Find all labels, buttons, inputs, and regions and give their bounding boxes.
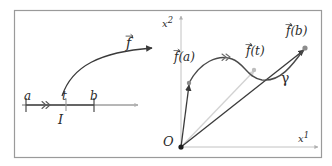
- label-f-of-a: f(a): [174, 51, 195, 63]
- label-t: t: [62, 90, 67, 102]
- label-axis-x2: x2: [162, 16, 173, 29]
- label-origin: O: [163, 135, 174, 148]
- label-axis-x2-sup: 2: [168, 15, 173, 25]
- point-f-of-t: [252, 68, 256, 72]
- figure-root: a t b I f x2 x1 O f(a): [0, 0, 332, 166]
- label-f-of-b: f(b): [286, 25, 308, 37]
- vector-arrow-accent-fb: f(b): [286, 25, 308, 37]
- vector-arrow-accent-fa: f(a): [174, 51, 195, 63]
- label-curve-gamma: γ: [281, 71, 289, 85]
- point-origin: [178, 144, 183, 149]
- label-f-of-b-text: f(b): [286, 24, 308, 38]
- label-b: b: [90, 90, 98, 102]
- label-f-of-t: f(t): [246, 45, 265, 57]
- vector-arrow-accent-ft: f(t): [246, 45, 265, 57]
- label-axis-x1-sup: 1: [304, 130, 309, 140]
- label-map-f: f: [126, 36, 131, 50]
- label-f-of-t-text: f(t): [246, 44, 265, 58]
- label-a: a: [24, 90, 31, 102]
- label-map-f-text: f: [126, 35, 131, 51]
- point-f-of-b: [302, 45, 307, 50]
- vector-arrow-accent-f: f: [126, 36, 131, 50]
- label-axis-x1: x1: [298, 131, 309, 144]
- point-f-of-a: [187, 81, 191, 85]
- label-f-of-a-text: f(a): [174, 50, 195, 64]
- label-interval-I: I: [58, 113, 63, 126]
